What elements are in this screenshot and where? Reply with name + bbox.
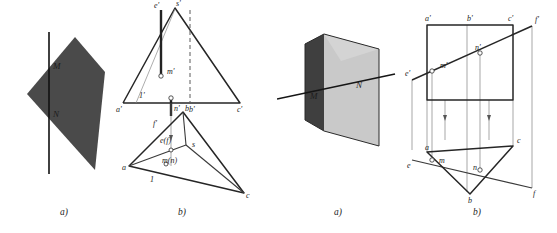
point-marker-m-front xyxy=(159,74,163,78)
label-ef: e(f) xyxy=(160,136,171,145)
label-e: e xyxy=(407,161,411,170)
label-m: m xyxy=(439,156,445,165)
figure-right-svg: M N a'b'c'e'm'n'f' abcemnf a) b) xyxy=(277,0,557,233)
pictorial-tetrahedron: M N xyxy=(27,32,105,174)
label-f: f xyxy=(533,189,537,198)
prism-face-left-dark xyxy=(305,34,324,131)
figure-group-left: M N s'a'b'c'e'm'n'1' abcse(f)m(n)1f' a) … xyxy=(0,0,280,233)
label-c: c' xyxy=(508,14,514,23)
label-n: n' xyxy=(174,104,180,113)
front-view-labels: a'b'c'e'm'n'f' xyxy=(405,14,539,78)
label-e: e' xyxy=(154,1,160,10)
top-view-labels: abcse(f)m(n)1f' xyxy=(122,104,250,200)
label-n: n' xyxy=(475,43,481,52)
label-M: M xyxy=(309,91,318,101)
label-1: 1 xyxy=(150,175,154,184)
pictorial-prism: M N xyxy=(277,34,395,146)
caption-a-right: a) xyxy=(334,207,342,218)
arrowhead-0 xyxy=(443,115,447,121)
top-view-labels: abcemnf xyxy=(407,136,537,205)
point-marker-n-front xyxy=(169,96,173,100)
label-b: b' xyxy=(467,14,473,23)
point-marker-m-front xyxy=(430,69,434,73)
point-marker-m-top xyxy=(430,158,434,162)
label-f: f' xyxy=(153,119,157,128)
label-1: 1' xyxy=(139,91,145,100)
label-a: a' xyxy=(116,105,122,114)
label-a: a' xyxy=(425,14,431,23)
label-n: n xyxy=(473,163,477,172)
front-view-labels: s'a'b'c'e'm'n'1' xyxy=(116,0,243,114)
figure-left-svg: M N s'a'b'c'e'm'n'1' abcse(f)m(n)1f' a) … xyxy=(0,0,280,233)
triangle-abc-top xyxy=(427,146,513,194)
line-ef-top xyxy=(412,160,532,188)
front-view-triangle: s'a'b'c'e'm'n'1' xyxy=(116,0,243,116)
label-s: s xyxy=(192,140,195,149)
caption-a-left: a) xyxy=(60,207,68,218)
arrowhead-1 xyxy=(487,115,491,121)
point-marker-ef-top xyxy=(169,148,173,152)
label-b: b xyxy=(468,196,472,205)
label-mn: m(n) xyxy=(162,156,177,165)
label-N: N xyxy=(52,109,60,119)
top-view-triangle: abcse(f)m(n)1f' xyxy=(122,103,250,200)
label-s: s' xyxy=(176,0,181,8)
label-e: e' xyxy=(405,69,411,78)
ray-s-to-1 xyxy=(136,9,175,103)
label-f: f' xyxy=(535,15,539,24)
edge-s-b xyxy=(183,112,186,145)
tetrahedron-body xyxy=(27,37,105,170)
caption-b-left: b) xyxy=(178,207,186,218)
caption-b-right: b) xyxy=(473,207,481,218)
label-b: b' xyxy=(189,105,195,114)
label-M: M xyxy=(52,61,61,71)
label-m: m' xyxy=(167,67,175,76)
figure-group-right: M N a'b'c'e'm'n'f' abcemnf a) b) xyxy=(277,0,557,233)
triangle-sabc-front xyxy=(123,8,240,103)
top-view-triangle: abcemnf xyxy=(407,136,537,205)
label-c: c' xyxy=(237,105,243,114)
label-a: a xyxy=(122,163,126,172)
triangle-abc-top xyxy=(129,112,244,193)
label-a: a xyxy=(425,143,429,152)
point-marker-n-top xyxy=(478,168,482,172)
projection-verticals xyxy=(412,25,532,192)
edge-s-a xyxy=(129,145,186,166)
label-N: N xyxy=(355,80,363,90)
label-m: m' xyxy=(440,61,448,70)
label-c: c xyxy=(246,191,250,200)
label-b: b xyxy=(185,104,189,113)
label-c: c xyxy=(517,136,521,145)
